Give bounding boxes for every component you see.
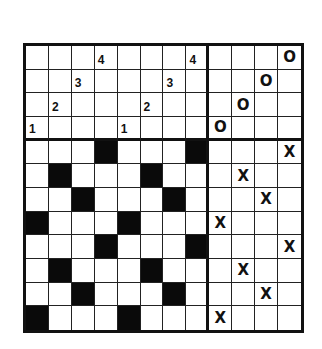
grid-cell-r2-c8[interactable] bbox=[209, 93, 232, 117]
grid-cell-r11-c3[interactable] bbox=[95, 306, 118, 330]
grid-cell-r5-c7[interactable] bbox=[186, 164, 209, 188]
grid-cell-r10-c4[interactable] bbox=[118, 283, 141, 307]
grid-cell-r7-c10[interactable] bbox=[255, 212, 278, 236]
grid-cell-r11-c6[interactable] bbox=[163, 306, 186, 330]
grid-cell-r4-c6[interactable] bbox=[163, 141, 186, 165]
grid-cell-r0-c3[interactable]: 4 bbox=[95, 46, 118, 70]
grid-cell-r8-c0[interactable] bbox=[26, 235, 49, 259]
grid-cell-r9-c2[interactable] bbox=[72, 259, 95, 283]
grid-cell-r7-c6[interactable] bbox=[163, 212, 186, 236]
grid-cell-r8-c1[interactable] bbox=[49, 235, 72, 259]
grid-cell-r11-c2[interactable] bbox=[72, 306, 95, 330]
grid-cell-r11-c11[interactable] bbox=[278, 306, 301, 330]
grid-cell-r1-c4[interactable] bbox=[118, 70, 141, 94]
grid-cell-r8-c9[interactable] bbox=[232, 235, 255, 259]
grid-cell-r3-c9[interactable] bbox=[232, 117, 255, 141]
grid-cell-r10-c0[interactable] bbox=[26, 283, 49, 307]
black-cell-r7-c0[interactable] bbox=[26, 212, 49, 236]
black-cell-r6-c6[interactable] bbox=[163, 188, 186, 212]
grid-cell-r4-c8[interactable] bbox=[209, 141, 232, 165]
grid-cell-r1-c6[interactable]: 3 bbox=[163, 70, 186, 94]
grid-cell-r0-c7[interactable]: 4 bbox=[186, 46, 209, 70]
grid-cell-r9-c7[interactable] bbox=[186, 259, 209, 283]
black-cell-r5-c1[interactable] bbox=[49, 164, 72, 188]
grid-cell-r0-c0[interactable] bbox=[26, 46, 49, 70]
grid-cell-r9-c11[interactable] bbox=[278, 259, 301, 283]
grid-cell-r4-c10[interactable] bbox=[255, 141, 278, 165]
grid-cell-r2-c10[interactable] bbox=[255, 93, 278, 117]
grid-cell-r6-c10[interactable]: X bbox=[255, 188, 278, 212]
grid-cell-r5-c0[interactable] bbox=[26, 164, 49, 188]
black-cell-r4-c7[interactable] bbox=[186, 141, 209, 165]
grid-cell-r5-c4[interactable] bbox=[118, 164, 141, 188]
black-cell-r8-c7[interactable] bbox=[186, 235, 209, 259]
grid-cell-r5-c11[interactable] bbox=[278, 164, 301, 188]
grid-cell-r6-c11[interactable] bbox=[278, 188, 301, 212]
grid-cell-r4-c9[interactable] bbox=[232, 141, 255, 165]
grid-cell-r2-c1[interactable]: 2 bbox=[49, 93, 72, 117]
grid-cell-r3-c10[interactable] bbox=[255, 117, 278, 141]
grid-cell-r5-c10[interactable] bbox=[255, 164, 278, 188]
grid-cell-r3-c4[interactable]: 1 bbox=[118, 117, 141, 141]
grid-cell-r9-c0[interactable] bbox=[26, 259, 49, 283]
grid-cell-r8-c5[interactable] bbox=[141, 235, 164, 259]
black-cell-r5-c5[interactable] bbox=[141, 164, 164, 188]
grid-cell-r10-c3[interactable] bbox=[95, 283, 118, 307]
black-cell-r11-c4[interactable] bbox=[118, 306, 141, 330]
grid-cell-r8-c8[interactable] bbox=[209, 235, 232, 259]
black-cell-r11-c0[interactable] bbox=[26, 306, 49, 330]
black-cell-r4-c3[interactable] bbox=[95, 141, 118, 165]
grid-cell-r2-c11[interactable] bbox=[278, 93, 301, 117]
grid-cell-r7-c3[interactable] bbox=[95, 212, 118, 236]
grid-cell-r7-c7[interactable] bbox=[186, 212, 209, 236]
black-cell-r6-c2[interactable] bbox=[72, 188, 95, 212]
grid-cell-r2-c7[interactable] bbox=[186, 93, 209, 117]
grid-cell-r10-c8[interactable] bbox=[209, 283, 232, 307]
grid-cell-r2-c5[interactable]: 2 bbox=[141, 93, 164, 117]
grid-cell-r10-c5[interactable] bbox=[141, 283, 164, 307]
grid-cell-r11-c10[interactable] bbox=[255, 306, 278, 330]
grid-cell-r0-c8[interactable] bbox=[209, 46, 232, 70]
grid-cell-r11-c8[interactable]: X bbox=[209, 306, 232, 330]
grid-cell-r8-c2[interactable] bbox=[72, 235, 95, 259]
grid-cell-r11-c7[interactable] bbox=[186, 306, 209, 330]
black-cell-r7-c4[interactable] bbox=[118, 212, 141, 236]
grid-cell-r0-c5[interactable] bbox=[141, 46, 164, 70]
grid-cell-r5-c3[interactable] bbox=[95, 164, 118, 188]
grid-cell-r0-c2[interactable] bbox=[72, 46, 95, 70]
grid-cell-r5-c2[interactable] bbox=[72, 164, 95, 188]
grid-cell-r11-c1[interactable] bbox=[49, 306, 72, 330]
grid-cell-r1-c7[interactable] bbox=[186, 70, 209, 94]
grid-cell-r9-c10[interactable] bbox=[255, 259, 278, 283]
grid-cell-r1-c10[interactable]: O bbox=[255, 70, 278, 94]
grid-cell-r10-c1[interactable] bbox=[49, 283, 72, 307]
grid-cell-r3-c7[interactable] bbox=[186, 117, 209, 141]
grid-cell-r9-c9[interactable]: X bbox=[232, 259, 255, 283]
grid-cell-r11-c5[interactable] bbox=[141, 306, 164, 330]
grid-cell-r1-c0[interactable] bbox=[26, 70, 49, 94]
grid-cell-r3-c1[interactable] bbox=[49, 117, 72, 141]
grid-cell-r4-c11[interactable]: X bbox=[278, 141, 301, 165]
black-cell-r9-c1[interactable] bbox=[49, 259, 72, 283]
grid-cell-r7-c11[interactable] bbox=[278, 212, 301, 236]
grid-cell-r6-c1[interactable] bbox=[49, 188, 72, 212]
grid-cell-r2-c0[interactable] bbox=[26, 93, 49, 117]
grid-cell-r1-c1[interactable] bbox=[49, 70, 72, 94]
grid-cell-r3-c6[interactable] bbox=[163, 117, 186, 141]
grid-cell-r5-c6[interactable] bbox=[163, 164, 186, 188]
grid-cell-r8-c6[interactable] bbox=[163, 235, 186, 259]
grid-cell-r7-c1[interactable] bbox=[49, 212, 72, 236]
grid-cell-r4-c2[interactable] bbox=[72, 141, 95, 165]
black-cell-r8-c3[interactable] bbox=[95, 235, 118, 259]
grid-cell-r9-c4[interactable] bbox=[118, 259, 141, 283]
grid-cell-r11-c9[interactable] bbox=[232, 306, 255, 330]
grid-cell-r0-c1[interactable] bbox=[49, 46, 72, 70]
grid-cell-r1-c5[interactable] bbox=[141, 70, 164, 94]
grid-cell-r4-c1[interactable] bbox=[49, 141, 72, 165]
grid-cell-r6-c4[interactable] bbox=[118, 188, 141, 212]
grid-cell-r10-c11[interactable] bbox=[278, 283, 301, 307]
grid-cell-r1-c9[interactable] bbox=[232, 70, 255, 94]
grid-cell-r6-c8[interactable] bbox=[209, 188, 232, 212]
grid-cell-r3-c11[interactable] bbox=[278, 117, 301, 141]
grid-cell-r8-c4[interactable] bbox=[118, 235, 141, 259]
